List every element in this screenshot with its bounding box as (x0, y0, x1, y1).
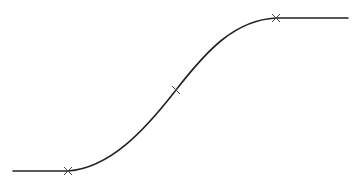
marker-inflection-icon (172, 86, 180, 94)
s-curve-diagram (0, 0, 359, 183)
diagram-canvas (0, 0, 359, 183)
s-curve-path (13, 18, 348, 171)
